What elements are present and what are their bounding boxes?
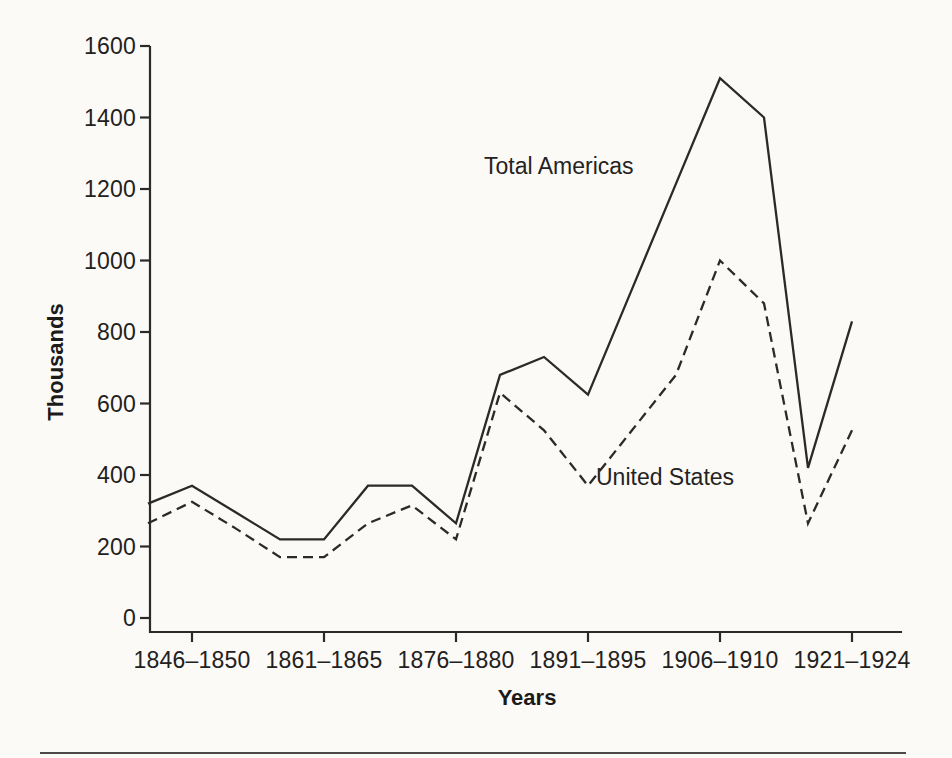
x-tick-label: 1891–1895 bbox=[530, 647, 647, 674]
united-states-series-label: United States bbox=[596, 464, 734, 491]
united-states-line bbox=[148, 261, 852, 558]
x-tick-label: 1921–1924 bbox=[794, 647, 911, 674]
y-tick-label: 1000 bbox=[56, 248, 136, 275]
total-americas-line bbox=[148, 78, 852, 539]
bottom-divider-rule bbox=[40, 752, 906, 754]
y-tick-label: 1600 bbox=[56, 33, 136, 60]
y-tick-label: 1400 bbox=[56, 105, 136, 132]
y-axis-title: Thousands bbox=[43, 303, 69, 420]
chart-canvas bbox=[0, 0, 952, 758]
y-tick-label: 200 bbox=[56, 534, 136, 561]
total-americas-series-label: Total Americas bbox=[484, 153, 634, 180]
y-tick-label: 400 bbox=[56, 462, 136, 489]
x-tick-label: 1906–1910 bbox=[662, 647, 779, 674]
x-tick-label: 1861–1865 bbox=[266, 647, 383, 674]
x-tick-label: 1846–1850 bbox=[134, 647, 251, 674]
x-axis-title: Years bbox=[498, 685, 557, 711]
x-tick-label: 1876–1880 bbox=[398, 647, 515, 674]
scanned-book-page: 02004006008001000120014001600 1846–18501… bbox=[0, 0, 952, 758]
y-tick-label: 0 bbox=[56, 605, 136, 632]
emigration-line-chart: 02004006008001000120014001600 1846–18501… bbox=[0, 0, 952, 758]
y-tick-label: 1200 bbox=[56, 176, 136, 203]
